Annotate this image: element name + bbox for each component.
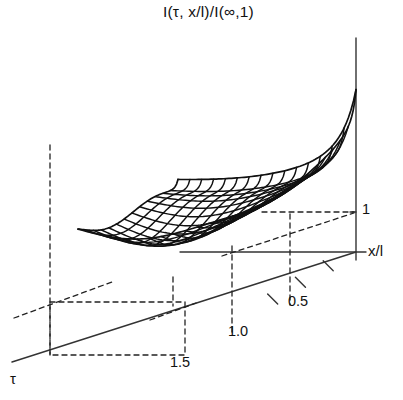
mesh-line-constant-x	[244, 128, 344, 212]
surface-plot-svg	[0, 0, 403, 400]
x-axis-label: x/l	[368, 243, 383, 258]
depth-tick-label-0-5: 0.5	[288, 294, 308, 309]
depth-tick-1-5	[268, 294, 278, 304]
vertical-tick-label-1: 1	[362, 202, 370, 217]
mesh-line-constant-x	[125, 179, 225, 246]
chart-figure: I(τ, x/l)/I(∞,1) x/l τ 1 0.5 1.0 1.5	[0, 0, 403, 400]
front-edge-guide	[222, 213, 354, 256]
depth-tick-label-1-5: 1.5	[170, 355, 190, 370]
mesh-line-constant-tau	[178, 90, 356, 180]
depth-tick-1	[295, 277, 305, 287]
mesh-line-constant-x	[209, 163, 309, 224]
depth-tick-0-5	[323, 261, 333, 271]
floor-guide-diagonal-left	[14, 282, 112, 318]
depth-tick-label-1-0: 1.0	[228, 324, 248, 339]
surface-mesh-layer	[78, 90, 356, 247]
tau-axis-label: τ	[10, 371, 16, 386]
chart-title: I(τ, x/l)/I(∞,1)	[163, 4, 254, 20]
